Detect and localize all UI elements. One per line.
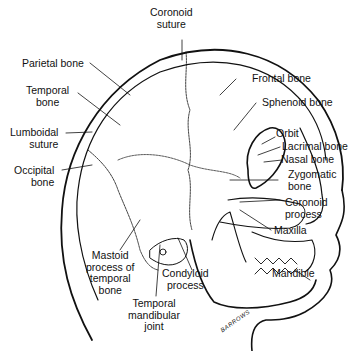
label-text: Temporal [26,85,69,97]
label-frontal-bone: Frontal bone [252,73,311,85]
label-text: suture [10,139,58,151]
label-coronoid-suture: Coronoid suture [150,7,193,30]
label-temporal-bone: Temporal bone [26,85,69,108]
label-text: bone [86,285,134,297]
label-text: Mastoid [86,250,134,262]
skull-diagram: Coronoid suture Parietal bone Temporal b… [0,0,358,351]
label-parietal-bone: Parietal bone [22,58,84,70]
label-text: Lumboidal [10,127,58,139]
label-text: Temporal [128,298,180,310]
label-mastoid-process: Mastoid process of temporal bone [86,250,134,296]
label-condyloid-process: Condyloid process [162,268,209,291]
label-text: temporal [86,273,134,285]
label-lumboidal-suture: Lumboidal suture [10,127,58,150]
label-mandible: Mandible [272,268,315,280]
label-orbit: Orbit [276,128,299,140]
label-text: joint [128,321,180,333]
label-coronoid-process: Coronoid process [285,197,328,220]
label-text: bone [26,97,69,109]
label-text: suture [150,19,193,31]
label-maxilla: Maxilla [274,225,307,237]
label-text: process [162,280,209,292]
label-sphenoid-bone: Sphenoid bone [262,97,333,109]
label-occipital-bone: Occipital bone [14,165,54,188]
label-nasal-bone: Nasal bone [281,154,334,166]
label-text: Occipital [14,165,54,177]
label-lacrimal-bone: Lacrimal bone [282,141,348,153]
label-zygomatic-bone: Zygomatic bone [288,169,336,192]
label-text: Condyloid [162,268,209,280]
label-temporal-mandibular-joint: Temporal mandibular joint [128,298,180,333]
label-text: Coronoid [285,197,328,209]
label-text: bone [14,177,54,189]
label-text: Zygomatic [288,169,336,181]
label-text: bone [288,181,336,193]
label-text: process [285,209,328,221]
label-text: Coronoid [150,7,193,19]
